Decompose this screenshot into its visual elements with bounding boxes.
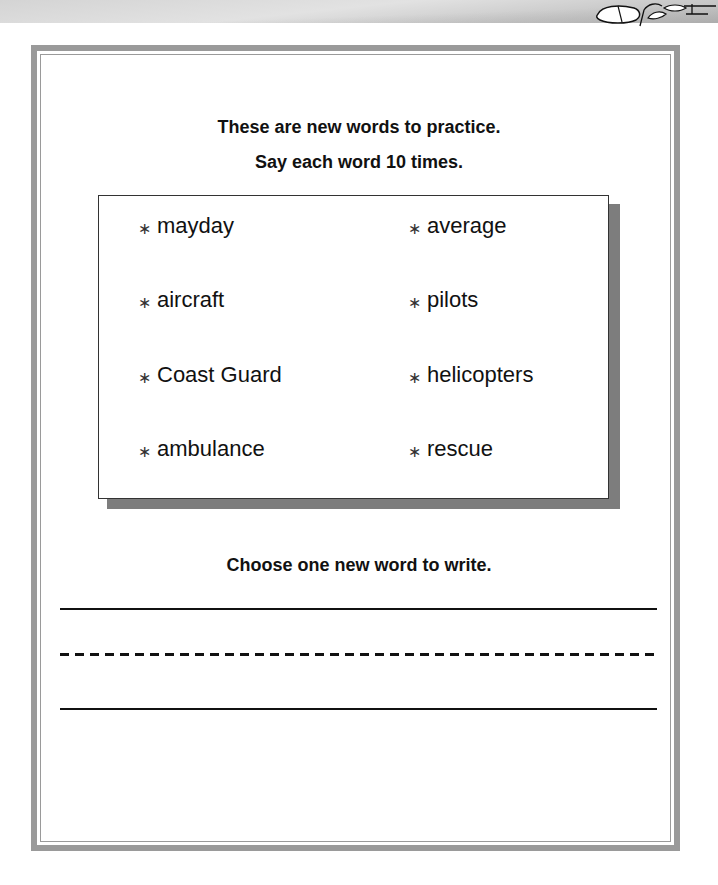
word-label: ambulance	[157, 436, 265, 461]
asterisk-bullet-icon: ∗	[138, 294, 151, 311]
word-item: ∗helicopters	[408, 362, 533, 388]
writing-line-top[interactable]	[60, 608, 657, 610]
writing-line-midline-dashed[interactable]	[60, 653, 657, 656]
word-label: aircraft	[157, 287, 224, 312]
asterisk-bullet-icon: ∗	[408, 443, 421, 460]
asterisk-bullet-icon: ∗	[138, 369, 151, 386]
instruction-heading-1: These are new words to practice.	[0, 117, 718, 138]
asterisk-bullet-icon: ∗	[138, 220, 151, 237]
word-label: pilots	[427, 287, 478, 312]
asterisk-bullet-icon: ∗	[408, 369, 421, 386]
word-label: helicopters	[427, 362, 533, 387]
writing-prompt: Choose one new word to write.	[0, 555, 718, 576]
writing-line-baseline[interactable]	[60, 708, 657, 710]
word-label: rescue	[427, 436, 493, 461]
word-item: ∗average	[408, 213, 507, 239]
word-item: ∗pilots	[408, 287, 478, 313]
word-item: ∗rescue	[408, 436, 493, 462]
word-item: ∗aircraft	[138, 287, 224, 313]
word-item: ∗ambulance	[138, 436, 265, 462]
asterisk-bullet-icon: ∗	[408, 220, 421, 237]
word-label: Coast Guard	[157, 362, 282, 387]
clipart-decoration-icon	[588, 0, 718, 28]
word-label: mayday	[157, 213, 234, 238]
word-item: ∗Coast Guard	[138, 362, 282, 388]
word-item: ∗mayday	[138, 213, 234, 239]
word-label: average	[427, 213, 507, 238]
asterisk-bullet-icon: ∗	[408, 294, 421, 311]
instruction-heading-2: Say each word 10 times.	[0, 152, 718, 173]
asterisk-bullet-icon: ∗	[138, 443, 151, 460]
